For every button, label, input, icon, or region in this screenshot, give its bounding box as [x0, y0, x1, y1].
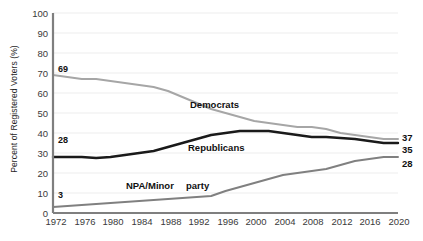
x-tick-label: 2020	[388, 216, 409, 227]
x-tick-label: 2008	[302, 216, 323, 227]
plot-area	[53, 13, 398, 213]
x-tick-label: 1980	[102, 216, 123, 227]
y-tick-label: 40	[26, 128, 48, 139]
x-tick-label: 2000	[245, 216, 266, 227]
series-canvas	[53, 13, 398, 213]
y-tick-label: 90	[26, 28, 48, 39]
y-tick-label: 30	[26, 148, 48, 159]
x-tick-label: 1972	[45, 216, 66, 227]
series-group	[53, 75, 398, 207]
y-tick-label: 70	[26, 68, 48, 79]
y-tick-label: 60	[26, 88, 48, 99]
democrats-end-value: 37	[402, 132, 413, 143]
y-axis-tick-labels: 100 90 80 70 60 50 40 30 20 10 0	[26, 0, 48, 241]
x-tick-label: 2016	[359, 216, 380, 227]
x-tick-label: 1996	[217, 216, 238, 227]
registered-voters-line-chart: Percent of Registered Voters (%) 100 90 …	[0, 0, 423, 241]
republicans-start-value: 28	[58, 135, 68, 145]
series-label-democrats: Democrats	[190, 99, 239, 110]
y-tick-label: 10	[26, 188, 48, 199]
y-tick-label: 100	[26, 8, 48, 19]
series-label-npa-b: party	[186, 180, 209, 191]
x-tick-label: 2012	[331, 216, 352, 227]
x-tick-label: 1976	[74, 216, 95, 227]
y-axis-title: Percent of Registered Voters (%)	[9, 24, 19, 194]
npa-end-value: 28	[402, 158, 413, 169]
x-tick-label: 1988	[160, 216, 181, 227]
y-tick-label: 80	[26, 48, 48, 59]
x-tick-label: 2004	[274, 216, 295, 227]
y-tick-label: 20	[26, 168, 48, 179]
x-tick-label: 1984	[131, 216, 152, 227]
series-line-npa-minor	[53, 157, 398, 207]
series-label-npa-a: NPA/Minor	[126, 180, 174, 191]
series-label-republicans: Republicans	[188, 142, 245, 153]
x-tick-label: 1992	[188, 216, 209, 227]
democrats-start-value: 69	[58, 64, 68, 74]
republicans-end-value: 35	[402, 144, 413, 155]
npa-start-value: 3	[58, 190, 63, 200]
y-tick-label: 50	[26, 108, 48, 119]
